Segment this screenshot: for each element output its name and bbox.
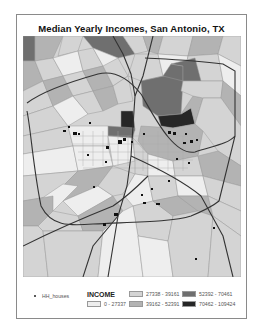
legend-range-1: 0 - 27337 [104, 301, 126, 307]
choropleth-map[interactable] [23, 36, 241, 277]
point-marker-icon [34, 295, 36, 297]
legend-points-entry: HH_houses [34, 293, 69, 299]
legend-swatch-3 [129, 301, 143, 307]
legend-swatch-2 [129, 291, 143, 297]
map-title: Median Yearly Incomes, San Antonio, TX [17, 23, 246, 34]
legend-field-title: INCOME [87, 291, 115, 298]
legend-class-2: 27338 - 39161 [129, 291, 179, 297]
legend-class-3: 39162 - 52391 [129, 301, 179, 307]
map-legend: HH_houses INCOME 0 - 27337 27338 - 39161… [17, 285, 246, 315]
legend-swatch-1 [87, 301, 101, 307]
legend-class-1: 0 - 27337 [87, 301, 126, 307]
legend-class-4: 52392 - 70461 [182, 291, 232, 297]
legend-range-4: 52392 - 70461 [199, 291, 232, 297]
legend-range-5: 70462 - 109424 [199, 301, 235, 307]
map-layout-frame: Median Yearly Incomes, San Antonio, TX [16, 14, 247, 319]
legend-points-label: HH_houses [42, 293, 69, 299]
legend-class-5: 70462 - 109424 [182, 301, 235, 307]
legend-range-2: 27338 - 39161 [146, 291, 179, 297]
legend-swatch-4 [182, 291, 196, 297]
legend-range-3: 39162 - 52391 [146, 301, 179, 307]
legend-swatch-5 [182, 301, 196, 307]
